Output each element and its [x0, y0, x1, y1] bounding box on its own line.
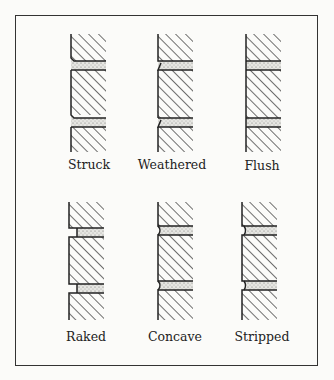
- stripped-label: Stripped: [235, 329, 290, 344]
- stripped-joint-diagram: [239, 202, 281, 320]
- flush-joint-diagram: [243, 34, 285, 152]
- weathered-joint-diagram: [155, 34, 197, 152]
- concave-label: Concave: [148, 329, 202, 344]
- struck-joint-diagram: [68, 34, 110, 152]
- weathered-label: Weathered: [138, 157, 207, 172]
- flush-label: Flush: [244, 158, 279, 173]
- raked-label: Raked: [66, 329, 106, 344]
- raked-joint-diagram: [66, 202, 108, 320]
- struck-label: Struck: [68, 157, 110, 172]
- concave-joint-diagram: [155, 202, 197, 320]
